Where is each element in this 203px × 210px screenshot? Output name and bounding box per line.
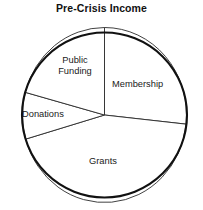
slice-label-donations: Donations	[22, 109, 88, 120]
pie-chart-figure: Pre-Crisis Income Public Funding Members…	[0, 0, 203, 210]
pie-chart-canvas	[0, 0, 203, 210]
slice-label-public-funding: Public Funding	[44, 55, 106, 77]
slice-label-membership: Membership	[112, 79, 184, 90]
slice-label-grants: Grants	[72, 156, 134, 167]
pie-slice-membership[interactable]	[105, 28, 187, 125]
